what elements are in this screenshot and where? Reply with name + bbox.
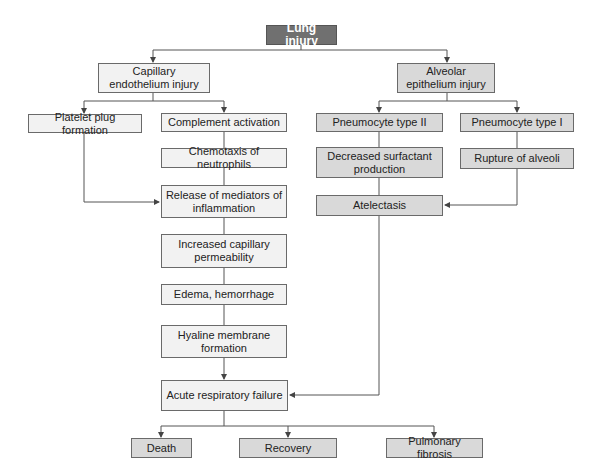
node-increased-capillary-permeability: Increased capillary permeability	[161, 234, 287, 268]
node-platelet-plug-formation: Platelet plug formation	[28, 114, 142, 133]
node-atelectasis: Atelectasis	[316, 195, 443, 216]
node-lung-injury: Lung injury	[266, 25, 337, 45]
node-release-of-mediators: Release of mediators of inflammation	[161, 185, 287, 218]
node-complement-activation: Complement activation	[161, 113, 287, 132]
node-acute-respiratory-failure: Acute respiratory failure	[161, 380, 288, 411]
node-decreased-surfactant-production: Decreased surfactant production	[316, 147, 443, 178]
node-death: Death	[131, 438, 192, 458]
node-pulmonary-fibrosis: Pulmonary fibrosis	[386, 438, 483, 458]
node-pneumocyte-type-ii: Pneumocyte type II	[316, 113, 443, 132]
node-alveolar-epithelium-injury: Alveolar epithelium injury	[397, 63, 495, 93]
node-rupture-of-alveoli: Rupture of alveoli	[460, 148, 574, 169]
node-hyaline-membrane-formation: Hyaline membrane formation	[161, 325, 287, 358]
node-pneumocyte-type-i: Pneumocyte type I	[460, 113, 574, 132]
node-recovery: Recovery	[239, 438, 337, 458]
node-chemotaxis-of-neutrophils: Chemotaxis of neutrophils	[161, 148, 287, 168]
node-capillary-endothelium-injury: Capillary endothelium injury	[98, 63, 210, 93]
connector-lines	[0, 0, 601, 476]
node-edema-hemorrhage: Edema, hemorrhage	[161, 284, 287, 305]
